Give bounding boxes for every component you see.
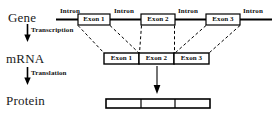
splice-line-exon3-right bbox=[209, 26, 240, 54]
mrna-exon-label-1: Exon 1 bbox=[104, 55, 139, 62]
gene-intron-label-1: Intron bbox=[60, 7, 80, 15]
gene-intron-label-3: Intron bbox=[178, 7, 198, 15]
protein-bar bbox=[106, 99, 210, 108]
gene-exon-label-1: Exon 1 bbox=[78, 16, 110, 23]
step-label-translation: Translation bbox=[31, 69, 67, 77]
splice-line-exon3-left bbox=[175, 26, 206, 54]
mrna-exon-label-2: Exon 2 bbox=[139, 55, 174, 62]
transcription-arrow bbox=[24, 24, 30, 42]
splice-line-exon1-left bbox=[78, 26, 104, 54]
splice-line-exon1-right bbox=[110, 26, 139, 54]
translation-arrow bbox=[24, 67, 30, 85]
splice-connector-group bbox=[78, 26, 240, 54]
step-label-transcription: Transcription bbox=[31, 26, 73, 34]
splice-line-exon2-left bbox=[140, 26, 142, 54]
gene-exon-label-2: Exon 2 bbox=[141, 16, 175, 23]
row-label-gene: Gene bbox=[8, 10, 36, 26]
gene-expression-diagram: Gene mRNA Protein Transcription Translat… bbox=[0, 0, 274, 119]
row-label-mrna: mRNA bbox=[6, 51, 44, 67]
mrna-to-protein-arrow bbox=[154, 66, 161, 94]
mrna-exon-label-3: Exon 3 bbox=[174, 55, 209, 62]
row-label-protein: Protein bbox=[6, 93, 45, 109]
gene-exon-label-3: Exon 3 bbox=[206, 16, 240, 23]
gene-intron-label-4: Intron bbox=[243, 7, 263, 15]
gene-intron-label-2: Intron bbox=[114, 7, 134, 15]
